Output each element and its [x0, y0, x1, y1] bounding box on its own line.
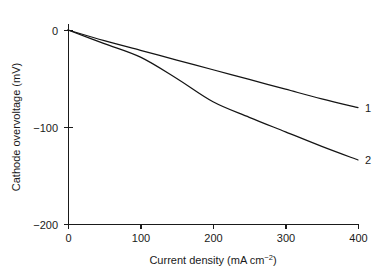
x-axis-title-tail: )	[273, 254, 277, 266]
x-axis-title-main: Current density (mA cm	[149, 254, 264, 266]
chart-figure: 0 −100 −200 0 100 200 300 400 Current de…	[0, 0, 391, 275]
y-tick-label-minus200: −200	[33, 219, 58, 231]
x-axis-title: Current density (mA cm−2)	[149, 253, 276, 267]
x-axis-title-exponent: −2	[264, 253, 273, 262]
y-axis-title: Cathode overvoltage (mV)	[10, 63, 22, 191]
series-line-2	[68, 30, 358, 160]
series-label-1: 1	[365, 102, 371, 114]
y-tick-label-minus100: −100	[33, 122, 58, 134]
series-line-1	[68, 30, 358, 108]
x-tick-label-100: 100	[132, 232, 150, 244]
x-tick-label-400: 400	[349, 232, 367, 244]
chart-plot-area: 0 −100 −200 0 100 200 300 400 Current de…	[0, 0, 391, 275]
y-tick-label-0: 0	[52, 25, 58, 37]
x-tick-label-0: 0	[65, 232, 71, 244]
x-tick-label-200: 200	[204, 232, 222, 244]
x-tick-label-300: 300	[277, 232, 295, 244]
series-label-2: 2	[365, 154, 371, 166]
